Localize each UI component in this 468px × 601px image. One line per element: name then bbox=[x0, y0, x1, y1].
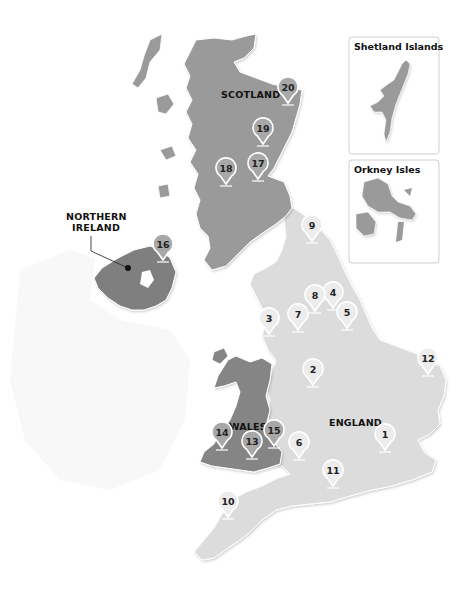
pin-number: 9 bbox=[309, 220, 316, 231]
label-england: ENGLAND bbox=[329, 417, 382, 428]
skye bbox=[156, 94, 174, 114]
label-northern-ireland-2: IRELAND bbox=[72, 222, 120, 233]
pin-number: 14 bbox=[215, 427, 229, 438]
label-wales: WALES bbox=[229, 421, 267, 432]
pin-number: 20 bbox=[281, 82, 295, 93]
mull bbox=[160, 146, 176, 160]
inset-orkney-title: Orkney Isles bbox=[354, 164, 421, 175]
outer-hebrides bbox=[132, 34, 162, 88]
pin-number: 8 bbox=[312, 290, 319, 301]
pin-number: 2 bbox=[310, 364, 317, 375]
pin-number: 13 bbox=[245, 436, 258, 447]
pin-number: 7 bbox=[295, 309, 302, 320]
region-scotland[interactable] bbox=[184, 34, 302, 270]
pin-number: 1 bbox=[382, 429, 389, 440]
pin-number: 18 bbox=[219, 163, 233, 174]
inset-orkney[interactable]: Orkney Isles bbox=[349, 160, 439, 263]
pin-number: 12 bbox=[421, 353, 434, 364]
uk-map: SCOTLAND NORTHERN IRELAND WALES ENGLAND … bbox=[0, 0, 468, 601]
pin-number: 10 bbox=[221, 496, 235, 507]
pin-number: 16 bbox=[156, 239, 170, 250]
islay bbox=[158, 184, 170, 198]
pin-number: 6 bbox=[296, 437, 303, 448]
ni-leader-dot bbox=[125, 265, 131, 271]
pin-number: 17 bbox=[251, 158, 264, 169]
pin-number: 3 bbox=[266, 313, 273, 324]
inset-shetland-title: Shetland Islands bbox=[354, 41, 444, 52]
inset-shetland[interactable]: Shetland Islands bbox=[349, 37, 444, 154]
pin-number: 11 bbox=[326, 465, 339, 476]
pin-number: 5 bbox=[344, 307, 351, 318]
pin-number: 19 bbox=[256, 123, 269, 134]
anglesey bbox=[212, 348, 228, 364]
label-scotland: SCOTLAND bbox=[221, 89, 280, 100]
pin-number: 4 bbox=[330, 287, 337, 298]
label-northern-ireland-1: NORTHERN bbox=[66, 211, 127, 222]
pin-number: 15 bbox=[267, 425, 280, 436]
